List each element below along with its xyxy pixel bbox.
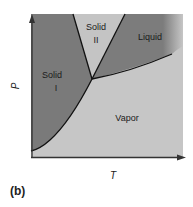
panel-label: (b) [10,184,25,198]
label-vapor: Vapor [115,113,138,123]
label-solid-ii-line2: II [93,35,98,45]
label-solid-ii-line1: Solid [86,22,106,32]
phase-diagram: Solid I Solid II Liquid Vapor P T [0,0,193,207]
x-axis-label: T [110,170,117,181]
label-solid-i-line1: Solid [42,70,62,80]
label-liquid: Liquid [138,32,162,42]
y-axis-label: P [10,82,21,89]
label-solid-i-line2: I [55,83,58,93]
